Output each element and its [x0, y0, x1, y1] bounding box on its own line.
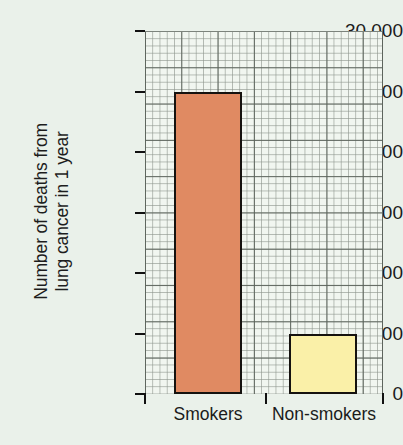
- bar-chart: Number of deaths from lung cancer in 1 y…: [0, 0, 403, 445]
- y-tick-mark-30000: [135, 30, 145, 32]
- x-tick-mark-left: [144, 393, 146, 404]
- y-tick-mark-25000: [135, 91, 145, 93]
- plot-area: [145, 31, 383, 394]
- y-axis-title: Number of deaths from lung cancer in 1 y…: [31, 81, 74, 341]
- x-tick-label-smokers: Smokers: [173, 404, 242, 425]
- y-tick-mark-10000: [135, 272, 145, 274]
- bar-non-smokers[interactable]: [289, 334, 357, 395]
- x-tick-mark-middle: [265, 393, 267, 404]
- y-tick-mark-15000: [135, 212, 145, 214]
- y-axis-title-line-2: lung cancer in 1 year: [52, 81, 73, 341]
- y-axis-title-line-1: Number of deaths from: [31, 81, 52, 341]
- x-tick-mark-right: [382, 393, 384, 404]
- x-tick-label-non-smokers: Non-smokers: [272, 404, 376, 425]
- y-tick-mark-20000: [135, 151, 145, 153]
- y-tick-mark-5000: [135, 333, 145, 335]
- bar-smokers[interactable]: [174, 92, 242, 395]
